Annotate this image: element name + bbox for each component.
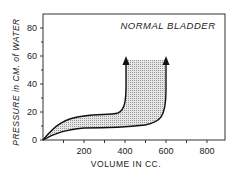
chart-title: NORMAL BLADDER [121,20,216,31]
x-tick-label: 600 [158,146,173,156]
x-tick-label: 400 [117,146,132,156]
y-axis-label: PRESSURE in CM. of WATER [11,18,21,145]
y-tick-label: 60 [27,51,37,61]
x-tick-label: 200 [76,146,91,156]
y-tick-label: 0 [32,135,37,145]
x-axis-label: VOLUME IN CC. [91,159,161,169]
y-tick-label: 20 [27,107,37,117]
bladder-chart: 0 20 40 60 80 200 400 600 800 VOLUME IN … [0,0,237,178]
x-tick-label: 800 [199,146,214,156]
y-tick-label: 80 [27,23,37,33]
y-tick-label: 40 [27,79,37,89]
